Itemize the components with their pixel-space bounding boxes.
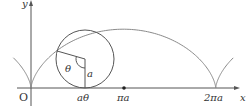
radius-to-point (57, 51, 85, 59)
tick-label-a-theta: aθ (77, 92, 89, 103)
pi-a-point (122, 86, 126, 90)
y-axis-arrow-icon (29, 0, 33, 6)
angle-label-theta: θ (65, 63, 71, 74)
x-axis-arrow-icon (234, 86, 240, 90)
origin-label: O (19, 91, 28, 104)
tick-label-pi-a: πa (116, 92, 130, 103)
tick-label-2pi-a: 2πa (203, 92, 223, 103)
radius-label-a: a (87, 68, 93, 79)
x-axis-label: x (240, 92, 246, 103)
cycloid-diagram: O y x aθ πa 2πa θ a (0, 0, 250, 106)
cycloid-curve (13, 29, 233, 88)
y-axis-label: y (21, 0, 28, 9)
